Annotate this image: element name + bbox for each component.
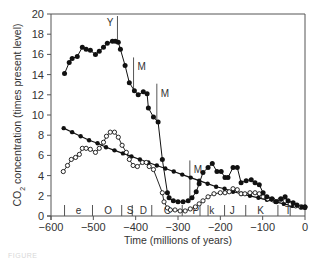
data-point (160, 191, 164, 195)
data-point (155, 163, 159, 167)
data-point (264, 194, 269, 199)
data-point (210, 161, 215, 166)
data-point (124, 150, 128, 154)
data-point (176, 199, 181, 204)
data-point (101, 140, 105, 144)
data-point (248, 191, 252, 195)
data-point (62, 126, 66, 130)
data-point (189, 195, 194, 200)
data-point (168, 208, 172, 212)
data-point (78, 134, 82, 138)
data-point (127, 157, 131, 161)
data-point (303, 204, 308, 209)
series-upper-filled (62, 39, 307, 210)
period-label: T (285, 205, 291, 216)
x-tick-label: −600 (39, 221, 64, 233)
period-label: D (140, 205, 147, 216)
data-point (227, 190, 231, 194)
data-point (193, 205, 197, 209)
y-tick-label: 10 (32, 109, 44, 121)
data-point (97, 49, 102, 54)
data-point (286, 198, 291, 203)
x-axis: −600−500−400−300−200−1000 (39, 216, 308, 233)
data-point (256, 196, 260, 200)
plot-frame (51, 14, 305, 216)
x-tick-label: −200 (208, 221, 233, 233)
figure-caption: FIGURE (8, 252, 37, 259)
data-point (87, 138, 91, 142)
data-point (219, 169, 224, 174)
data-point (65, 163, 69, 167)
data-point (257, 182, 262, 187)
data-point (294, 202, 299, 207)
y-tick-label: 14 (32, 69, 44, 81)
data-point (112, 130, 116, 134)
co2-concentration-chart: 02468101214161820 −600−500−400−300−200−1… (0, 0, 323, 265)
marker-label: Y (107, 17, 114, 28)
data-point (104, 145, 108, 149)
data-point (223, 191, 227, 195)
data-point (218, 191, 222, 195)
period-label: J (230, 205, 235, 216)
data-point (73, 155, 77, 159)
data-point (235, 165, 240, 170)
data-point (151, 115, 156, 120)
data-point (243, 192, 247, 196)
data-point (84, 146, 88, 150)
data-point (116, 135, 120, 139)
data-point (108, 130, 112, 134)
data-point (239, 180, 244, 185)
y-tick-label: 18 (32, 28, 44, 40)
data-point (160, 157, 165, 162)
marker-label: M (161, 88, 169, 99)
data-point (151, 167, 155, 171)
series-line (65, 41, 305, 207)
y-tick-label: 2 (38, 190, 44, 202)
data-point (261, 190, 266, 195)
data-point (97, 146, 101, 150)
data-point (104, 134, 108, 138)
x-tick-label: 0 (302, 221, 308, 233)
data-point (194, 189, 199, 194)
data-point (197, 181, 202, 186)
data-point (206, 165, 211, 170)
data-point (214, 185, 218, 189)
data-point (212, 192, 216, 196)
data-point (178, 209, 182, 213)
data-point (189, 175, 193, 179)
data-point (93, 150, 97, 154)
data-point (95, 141, 99, 145)
data-point (173, 208, 177, 212)
data-point (70, 56, 75, 61)
data-point (88, 147, 92, 151)
y-tick-label: 8 (38, 129, 44, 141)
data-point (225, 175, 230, 180)
marker-label: M (138, 61, 146, 72)
data-point (165, 190, 170, 195)
y-tick-label: 16 (32, 48, 44, 60)
period-label: e (76, 205, 82, 216)
period-label: S (127, 205, 134, 216)
data-point (101, 45, 106, 50)
data-point (144, 160, 148, 164)
data-point (77, 152, 81, 156)
data-point (172, 169, 176, 173)
period-label: O (104, 205, 112, 216)
y-tick-label: 6 (38, 149, 44, 161)
data-point (123, 63, 128, 68)
period-label: k (209, 205, 215, 216)
data-point (67, 60, 72, 65)
x-tick-label: −500 (81, 221, 106, 233)
data-point (135, 164, 139, 168)
data-point (120, 143, 124, 147)
data-point (116, 40, 121, 45)
data-point (62, 71, 67, 76)
data-point (197, 202, 201, 206)
x-axis-title: Time (millions of years) (124, 234, 232, 246)
data-point (200, 170, 205, 175)
data-point (88, 48, 93, 53)
data-point (132, 88, 137, 93)
data-point (183, 209, 187, 213)
data-point (205, 181, 209, 185)
y-tick-label: 12 (32, 89, 44, 101)
